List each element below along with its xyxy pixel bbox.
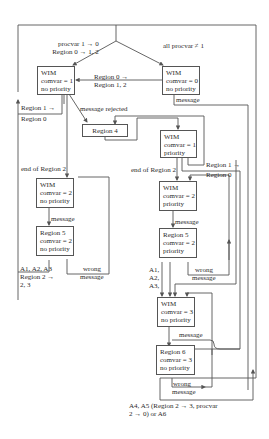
state-line: WIM	[164, 133, 193, 141]
label-region1-to-0-right: Region 1 → Region 0	[206, 161, 240, 179]
label-end-region2-right: end of Region 2	[131, 166, 176, 174]
label-region0-to-12: Region 0 → Region 1, 2	[94, 73, 128, 89]
state-wim-comvar0: WIM comvar = 0 no priority	[162, 66, 200, 95]
label-line: Region 0	[21, 115, 55, 123]
state-line: WIM	[161, 300, 191, 308]
state-line: no priority	[41, 85, 71, 93]
label-a123-right: A1, A2, A3,	[149, 266, 159, 290]
label-line: Region 1 →	[21, 104, 55, 112]
label-message-left: message	[51, 215, 75, 223]
label-end-region2-left: end of Region 2	[21, 165, 66, 173]
state-line: no priority	[160, 364, 191, 372]
label-message-top: message	[176, 96, 200, 104]
label-all-procvar: all procvar ≠ 1	[163, 42, 204, 50]
state-transition-diagram: WIM comvar = 0 no priority WIM comvar = …	[0, 0, 269, 439]
state-line: no priority	[40, 245, 70, 253]
label-line: message	[192, 274, 216, 282]
label-line: A1, A2, A3	[20, 265, 54, 273]
label-line: Region 1, 2	[94, 81, 128, 89]
label-line: A3,	[149, 282, 159, 290]
label-region1-to-0-left: Region 1 → Region 0	[21, 104, 55, 123]
label-line: Region 0	[206, 171, 240, 179]
state-line: Region 4	[86, 127, 124, 135]
label-line: A4, A5 (Region 2 → 3, procvar	[129, 402, 218, 410]
label-message-right: message	[175, 218, 199, 226]
state-line: priority	[163, 247, 193, 255]
state-wim-comvar2-priority: WIM comvar = 2 priority	[159, 181, 197, 211]
state-line: comvar = 2	[40, 237, 70, 245]
label-line: A2,	[149, 274, 159, 282]
state-line: no priority	[161, 316, 191, 324]
state-line: comvar = 3	[160, 356, 191, 364]
state-line: priority	[163, 200, 193, 208]
state-line: Region 5	[40, 229, 70, 237]
label-line: message	[80, 273, 104, 281]
label-line: A1,	[149, 266, 159, 274]
label-wrong-message-left: wrong message	[80, 265, 104, 281]
state-line: comvar = 2	[40, 189, 70, 197]
label-message-rejected: message rejected	[80, 105, 128, 113]
state-region5-priority: Region 5 comvar = 2 priority	[159, 228, 197, 258]
state-wim-comvar2-no-priority: WIM comvar = 2 no priority	[36, 178, 74, 208]
state-region6: Region 6 comvar = 3 no priority	[156, 345, 195, 375]
label-line: Region 0 →	[94, 73, 128, 81]
state-line: comvar = 1	[41, 77, 71, 85]
state-region5-no-priority: Region 5 comvar = 2 no priority	[36, 226, 74, 256]
state-wim-comvar3-no-priority: WIM comvar = 3 no priority	[157, 297, 195, 327]
label-line: wrong	[80, 265, 104, 273]
label-bottom-note: A4, A5 (Region 2 → 3, procvar 2 → 0) or …	[129, 402, 218, 418]
label-line: wrong	[172, 380, 196, 388]
state-region4: Region 4	[82, 124, 128, 137]
label-line: Region 2 →	[20, 273, 54, 281]
state-line: Region 6	[160, 348, 191, 356]
label-line: 2 → 0) or A6	[129, 410, 218, 418]
state-line: Region 5	[163, 231, 193, 239]
label-line: Region 1 →	[206, 161, 240, 169]
label-message-lower: message	[179, 331, 203, 339]
state-line: no priority	[166, 85, 196, 93]
label-wrong-message-right: wrong message	[192, 266, 216, 282]
state-line: WIM	[40, 181, 70, 189]
label-wrong-message-lower: wrong message	[172, 380, 196, 396]
label-line: 2, 3	[20, 281, 54, 289]
state-line: comvar = 2	[163, 192, 193, 200]
state-wim-comvar1-priority: WIM comvar = 1 priority	[160, 130, 197, 158]
label-procvar-transition: procvar 1 → 0 Region 0 → 1, 2	[52, 40, 99, 56]
state-wim-comvar1-no-priority: WIM comvar = 1 no priority	[37, 66, 75, 95]
state-line: WIM	[41, 69, 71, 77]
label-a123-left: A1, A2, A3 Region 2 → 2, 3	[20, 265, 54, 289]
state-line: priority	[164, 149, 193, 157]
state-line: comvar = 0	[166, 77, 196, 85]
state-line: comvar = 1	[164, 141, 193, 149]
state-line: WIM	[163, 184, 193, 192]
state-line: comvar = 3	[161, 308, 191, 316]
label-line: procvar 1 → 0	[52, 40, 99, 48]
state-line: WIM	[166, 69, 196, 77]
state-line: no priority	[40, 197, 70, 205]
label-line: wrong	[192, 266, 216, 274]
label-line: Region 0 → 1, 2	[52, 48, 99, 56]
label-line: message	[172, 388, 196, 396]
state-line: comvar = 2	[163, 239, 193, 247]
